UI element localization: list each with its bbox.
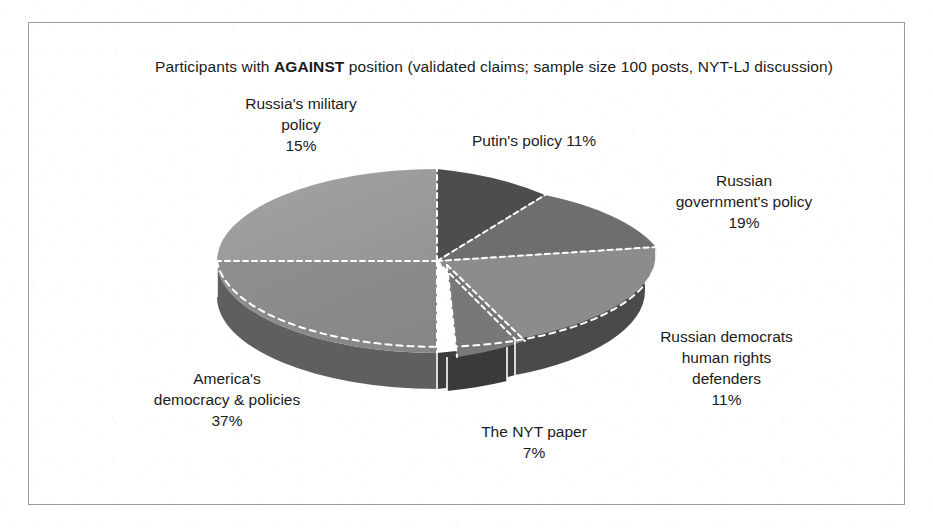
pie-label-military: Russia's military policy 15% xyxy=(201,93,401,156)
pie-label-putin: Putin's policy 11% xyxy=(429,130,639,151)
chart-title: Participants with AGAINST position (vali… xyxy=(149,55,839,78)
pie-slice-military xyxy=(217,169,437,261)
chart-frame: Participants with AGAINST position (vali… xyxy=(28,22,905,505)
pie-label-america: America's democracy & policies 37% xyxy=(102,368,352,431)
chart-title-emphasis: AGAINST xyxy=(274,58,344,75)
chart-title-suffix: position (validated claims; sample size … xyxy=(344,58,833,75)
chart-title-prefix: Participants with xyxy=(155,58,274,75)
pie-label-government: Russian government's policy 19% xyxy=(639,170,849,233)
pie-label-democrats: Russian democrats human rights defenders… xyxy=(619,326,834,410)
pie-label-nyt: The NYT paper 7% xyxy=(434,421,634,463)
